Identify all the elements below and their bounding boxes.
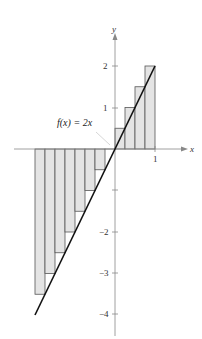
x-axis-label: x <box>189 144 194 154</box>
riemann-rectangle <box>45 149 55 274</box>
y-tick-label-1: 1 <box>103 103 108 113</box>
riemann-rectangles <box>35 66 155 294</box>
riemann-rectangle <box>85 149 95 191</box>
riemann-rectangle <box>95 149 105 170</box>
y-axis-label: y <box>111 24 116 34</box>
function-label: f(x) = 2x <box>57 117 93 129</box>
y-tick-label-neg4: −4 <box>99 309 109 319</box>
riemann-rectangle <box>55 149 65 253</box>
function-label-leader <box>96 132 110 145</box>
x-tick-label-1: 1 <box>153 154 158 164</box>
y-tick-label-neg2: −2 <box>99 227 109 237</box>
y-tick-label-2: 2 <box>103 61 108 71</box>
riemann-rectangle <box>145 66 155 149</box>
y-axis-arrow-icon <box>113 33 118 40</box>
riemann-rectangle <box>125 108 135 150</box>
y-tick-label-neg3: −3 <box>99 268 109 278</box>
riemann-rectangle <box>75 149 85 211</box>
riemann-sum-figure: x y 1 2 1 −2 −3 −4 f(x) = 2x <box>0 0 202 339</box>
riemann-rectangle <box>35 149 45 294</box>
riemann-rectangle <box>65 149 75 232</box>
x-axis-arrow-icon <box>181 147 188 152</box>
